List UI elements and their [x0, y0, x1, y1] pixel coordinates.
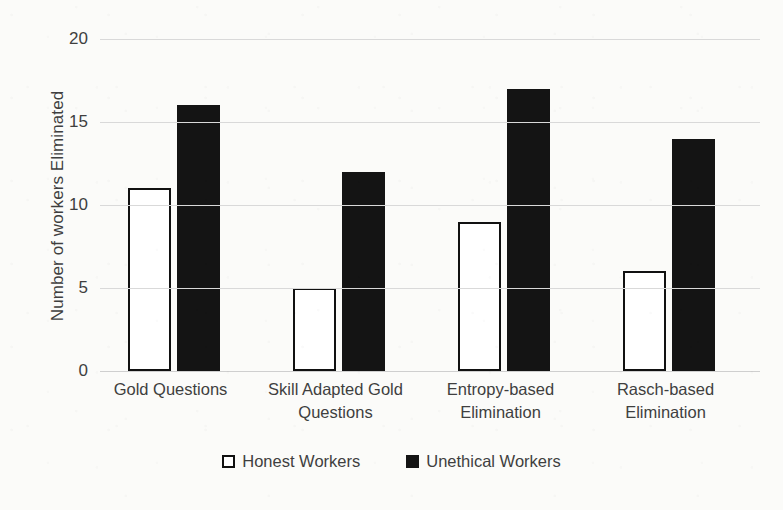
x-category-label-line2: Questions [253, 401, 418, 424]
gridline-20 [100, 39, 760, 40]
bar-unethical-2 [342, 172, 385, 371]
chart-legend: Honest WorkersUnethical Workers [0, 452, 783, 471]
x-category-label-line1: Skill Adapted Gold [253, 378, 418, 401]
legend-item-label: Unethical Workers [426, 452, 561, 471]
y-axis-tick-labels: 20151050 [36, 0, 88, 510]
bar-honest-4 [623, 271, 666, 371]
y-tick-label-5: 5 [42, 278, 88, 298]
bar-chart: Number of workers Eliminated 20151050 Go… [0, 0, 783, 510]
y-tick-label-10: 10 [42, 195, 88, 215]
bar-unethical-3 [507, 89, 550, 371]
legend-item-1[interactable]: Honest Workers [222, 452, 360, 471]
x-category-label-line2: Elimination [583, 401, 748, 424]
x-category-label-line1: Entropy-based [418, 378, 583, 401]
x-category-label-line1: Rasch-based [583, 378, 748, 401]
x-category-label-3: Entropy-basedElimination [418, 378, 583, 424]
bar-honest-3 [458, 222, 501, 371]
x-axis-category-labels: Gold QuestionsSkill Adapted GoldQuestion… [100, 378, 760, 438]
bar-unethical-1 [177, 105, 220, 371]
plot-area [100, 39, 760, 371]
y-tick-label-0: 0 [42, 361, 88, 381]
gridline-15 [100, 122, 760, 123]
open-square-icon [222, 455, 235, 468]
x-category-label-2: Skill Adapted GoldQuestions [253, 378, 418, 424]
gridline-5 [100, 288, 760, 289]
y-tick-label-15: 15 [42, 112, 88, 132]
legend-item-label: Honest Workers [242, 452, 360, 471]
bar-honest-2 [293, 288, 336, 371]
legend-item-2[interactable]: Unethical Workers [406, 452, 561, 471]
bar-honest-1 [128, 188, 171, 371]
bar-unethical-4 [672, 139, 715, 371]
gridline-0 [100, 371, 760, 372]
filled-square-icon [406, 455, 419, 468]
gridline-10 [100, 205, 760, 206]
x-category-label-line1: Gold Questions [88, 378, 253, 401]
x-category-label-4: Rasch-basedElimination [583, 378, 748, 424]
x-category-label-1: Gold Questions [88, 378, 253, 401]
y-tick-label-20: 20 [42, 29, 88, 49]
x-category-label-line2: Elimination [418, 401, 583, 424]
